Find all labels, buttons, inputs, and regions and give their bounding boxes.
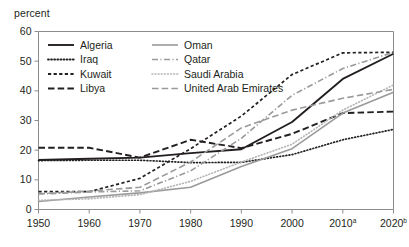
y-tick-label: 10 xyxy=(10,174,32,185)
x-tick-year: 2020 xyxy=(380,217,403,229)
x-tick-year: 1950 xyxy=(27,217,50,229)
series-line-saudi-arabia xyxy=(39,85,394,200)
x-tick-year: 1970 xyxy=(128,217,151,229)
legend-label-kuwait: Kuwait xyxy=(80,69,112,80)
x-tick-label: 1960 xyxy=(67,218,111,229)
y-tick-label: 30 xyxy=(10,115,32,126)
y-tick-label: 20 xyxy=(10,145,32,156)
legend-label-libya: Libya xyxy=(80,83,105,94)
x-tick-label: 1970 xyxy=(118,218,162,229)
x-tick-label: 2020b xyxy=(372,218,409,229)
x-tick-footnote-marker: b xyxy=(403,216,407,223)
footnote-text xyxy=(18,236,258,244)
series-line-iraq xyxy=(39,129,394,162)
legend-label-iraq: Iraq xyxy=(80,54,98,65)
x-tick-year: 2010 xyxy=(329,217,352,229)
chart-container: percent 0102030405060 195019601970198019… xyxy=(0,0,409,247)
x-tick-year: 1980 xyxy=(179,217,202,229)
y-tick-label: 50 xyxy=(10,56,32,67)
x-tick-label: 1950 xyxy=(17,218,61,229)
y-tick-label: 0 xyxy=(10,204,32,215)
legend-label-qatar: Qatar xyxy=(184,54,210,65)
legend-label-saudi-arabia: Saudi Arabia xyxy=(184,69,244,80)
x-tick-year: 2000 xyxy=(280,217,303,229)
legend-label-algeria: Algeria xyxy=(80,40,113,51)
x-tick-label: 2000 xyxy=(270,218,314,229)
line-chart-plot xyxy=(0,0,409,247)
legend-label-oman: Oman xyxy=(184,40,213,51)
x-tick-label: 1980 xyxy=(169,218,213,229)
x-tick-label: 2010a xyxy=(321,218,365,229)
y-tick-label: 40 xyxy=(10,85,32,96)
legend-label-united-arab-emirates: United Arab Emirates xyxy=(184,83,283,94)
x-tick-year: 1990 xyxy=(230,217,253,229)
x-tick-year: 1960 xyxy=(78,217,101,229)
x-tick-label: 1990 xyxy=(219,218,263,229)
y-tick-label: 60 xyxy=(10,26,32,37)
series-line-oman xyxy=(39,92,394,201)
series-line-united-arab-emirates xyxy=(39,89,394,193)
x-tick-footnote-marker: a xyxy=(353,216,357,223)
legend-sample-lines xyxy=(48,45,178,89)
